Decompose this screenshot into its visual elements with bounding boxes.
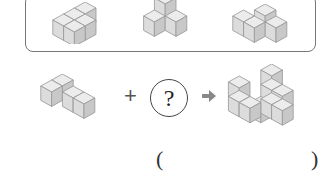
- plus-sign: +: [124, 85, 137, 107]
- answer-field[interactable]: [170, 148, 306, 170]
- answer-close-paren: ): [311, 148, 318, 170]
- choice-1-shape[interactable]: [48, 2, 112, 44]
- choice-3-shape[interactable]: [228, 4, 308, 46]
- unknown-circle: ?: [150, 79, 188, 117]
- answer-open-paren: (: [156, 148, 163, 170]
- question-mark: ?: [164, 85, 175, 112]
- arrow-icon: [202, 90, 216, 102]
- given-shape: [36, 74, 116, 122]
- choice-2-shape[interactable]: [140, 0, 200, 46]
- result-shape: [226, 64, 310, 136]
